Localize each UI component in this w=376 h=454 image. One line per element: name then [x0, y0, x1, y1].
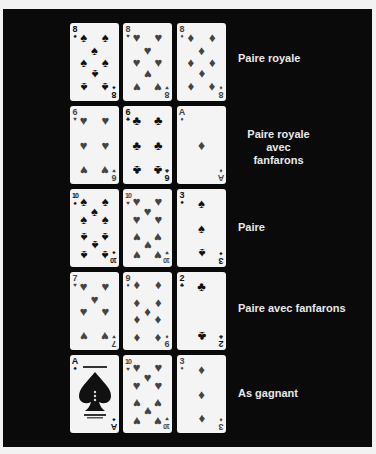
- suit-pip-icon: ♦: [152, 278, 165, 291]
- playing-card: 7♥7♥♥♥♥♥♥♥♥: [70, 272, 119, 350]
- suit-pip-icon: ♥: [77, 329, 90, 342]
- suit-pip-icon: ♥: [141, 43, 154, 56]
- suit-pip-icon: ♣: [130, 163, 143, 176]
- suit-pip-icon: ♥: [99, 139, 112, 152]
- suit-pip-icon: ♠: [99, 248, 112, 261]
- playing-card: 9♦9♦♦♦♦♦♦♦♦♦♦: [123, 272, 172, 350]
- playing-card: 8♦8♦♦♦♦♦♦♦♦♦: [177, 23, 226, 101]
- suit-pip-icon: ♥: [130, 414, 143, 427]
- suit-pip-icon: ♣: [195, 329, 208, 342]
- suit-pip-icon: ♦: [152, 314, 165, 327]
- playing-card: 8♥8♥♥♥♥♥♥♥♥♥: [123, 23, 172, 101]
- suit-pip-icon: ♣: [195, 280, 208, 293]
- suit-pip-icon: ♥: [99, 329, 112, 342]
- suit-pip-icon: ♥: [130, 212, 143, 225]
- suit-pip-icon: ♦: [184, 80, 197, 93]
- playing-card: 10♠10♠♠♠♠♠♠♠♠♠♠♠: [70, 189, 119, 267]
- playing-card: 6♣6♣♣♣♣♣♣♣: [123, 106, 172, 184]
- suit-pip-icon: ♥: [99, 305, 112, 318]
- suit-pip-icon: ♥: [130, 80, 143, 93]
- suit-pip-icon: ♦: [206, 31, 219, 44]
- suit-pip-icon: ♥: [77, 114, 90, 127]
- suit-pip-icon: ♠: [99, 212, 112, 225]
- ace-of-spades-art: [75, 362, 115, 426]
- card-index: 3♦: [178, 357, 186, 371]
- suit-pip-icon: ♦: [195, 68, 208, 81]
- card-index: A♦: [178, 108, 186, 122]
- suit-pip-icon: ♠: [88, 43, 101, 56]
- playing-card: 10♥10♥♥♥♥♥♥♥♥♥♥♥: [123, 355, 172, 433]
- playing-card: A♠A♠: [70, 355, 119, 433]
- card-index: 2♣: [217, 334, 225, 348]
- suit-pip-icon: ♥: [77, 163, 90, 176]
- suit-pip-icon: ♦: [195, 363, 208, 376]
- playing-card: 8♠8♠♠♠♠♠♠♠♠♠: [70, 23, 119, 101]
- suit-pip-icon: ♥: [130, 31, 143, 44]
- suit-pip-icon: ♦: [184, 31, 197, 44]
- suit-pip-icon: ♥: [99, 163, 112, 176]
- suit-pip-icon: ♠: [88, 68, 101, 81]
- cropped-caption: [0, 448, 376, 454]
- hand-label-as-gagnant: As gagnant: [238, 387, 298, 400]
- suit-pip-icon: ♥: [99, 280, 112, 293]
- suit-pip-icon: ♥: [152, 378, 165, 391]
- hand-label-paire-royale: Paire royale: [238, 52, 300, 65]
- suit-pip-icon: ♦: [152, 331, 165, 344]
- suit-pip-icon: ♠: [77, 80, 90, 93]
- suit-pip-icon: ♥: [130, 248, 143, 261]
- suit-pip-icon: ♠: [77, 248, 90, 261]
- suit-pip-icon: ♠: [195, 197, 208, 210]
- playing-card: 3♦3♦♦♦♦: [177, 355, 226, 433]
- suit-pip-icon: ♦: [195, 412, 208, 425]
- suit-pip-icon: ♦: [195, 139, 208, 152]
- suit-pip-icon: ♣: [130, 139, 143, 152]
- hand-label-paire-royale-fanfarons: Paire royale avec fanfarons: [241, 128, 316, 167]
- playing-card: 2♣2♣♣♣: [177, 272, 226, 350]
- suit-pip-icon: ♦: [195, 388, 208, 401]
- card-index: 3♠: [217, 251, 225, 265]
- suit-pip-icon: ♣: [130, 114, 143, 127]
- suit-pip-icon: ♥: [77, 305, 90, 318]
- suit-pip-icon: ♣: [152, 114, 165, 127]
- card-index: 2♣: [178, 274, 186, 288]
- card-index: 3♠: [178, 191, 186, 205]
- suit-pip-icon: ♥: [152, 414, 165, 427]
- suit-pip-icon: ♠: [77, 31, 90, 44]
- playing-card: 6♥6♥♥♥♥♥♥♥: [70, 106, 119, 184]
- suit-pip-icon: ♠: [195, 246, 208, 259]
- suit-pip-icon: ♦: [195, 43, 208, 56]
- suit-pip-icon: ♥: [77, 280, 90, 293]
- suit-pip-icon: ♥: [77, 139, 90, 152]
- suit-pip-icon: ♠: [195, 222, 208, 235]
- suit-pip-icon: ♣: [152, 139, 165, 152]
- suit-pip-icon: ♦: [130, 331, 143, 344]
- suit-pip-icon: ♥: [88, 292, 101, 305]
- suit-pip-icon: ♦: [206, 80, 219, 93]
- suit-pip-icon: ♥: [152, 80, 165, 93]
- suit-pip-icon: ♥: [152, 31, 165, 44]
- playing-card: A♦A♦♦: [177, 106, 226, 184]
- suit-pip-icon: ♠: [77, 212, 90, 225]
- suit-pip-icon: ♥: [152, 212, 165, 225]
- label-line-2: avec fanfarons: [241, 141, 316, 167]
- hand-label-paire-fanfarons: Paire avec fanfarons: [238, 302, 346, 315]
- suit-pip-icon: ♦: [130, 314, 143, 327]
- card-index: A♦: [217, 168, 225, 182]
- suit-pip-icon: ♥: [130, 378, 143, 391]
- suit-pip-icon: ♥: [152, 248, 165, 261]
- card-index: 3♦: [217, 417, 225, 431]
- suit-pip-icon: ♥: [141, 68, 154, 81]
- label-line-1: Paire royale: [241, 128, 316, 141]
- playing-card: 10♥10♥♥♥♥♥♥♥♥♥♥♥: [123, 189, 172, 267]
- hand-label-paire: Paire: [238, 221, 265, 234]
- suit-pip-icon: ♥: [99, 114, 112, 127]
- suit-pip-icon: ♠: [99, 80, 112, 93]
- suit-pip-icon: ♣: [152, 163, 165, 176]
- suit-pip-icon: ♦: [130, 278, 143, 291]
- suit-pip-icon: ♠: [99, 31, 112, 44]
- playing-card: 3♠3♠♠♠♠: [177, 189, 226, 267]
